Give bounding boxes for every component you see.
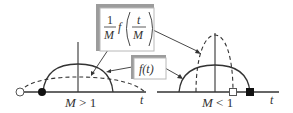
left-condition-label: M > 1 <box>64 95 96 110</box>
right-condition-label: M < 1 <box>201 95 233 110</box>
leader-line-scaled-left <box>92 50 108 74</box>
frac-numerator: 1 <box>107 13 113 27</box>
leader-line-original-left <box>110 67 132 71</box>
right-t-label: t <box>270 93 274 107</box>
original-function-label: f(t) <box>139 62 154 76</box>
right-panel: M < 1 t <box>157 33 279 110</box>
original-function-callout: f(t) <box>106 55 183 79</box>
arrowhead-icon <box>106 69 111 73</box>
open-circle-marker <box>16 88 24 96</box>
filled-circle-marker <box>38 88 46 96</box>
frac-denominator: M <box>103 28 115 42</box>
time-scaling-diagram: M > 1 t M < 1 t 1 M f t M <box>0 0 293 113</box>
leader-line-original-right <box>165 68 181 77</box>
left-panel: M > 1 t <box>16 42 146 110</box>
arrowhead-icon <box>195 49 201 54</box>
leader-line-scaled-right <box>153 30 199 52</box>
filled-square-marker <box>246 88 254 96</box>
inner-denominator: M <box>132 28 144 42</box>
left-t-label: t <box>140 93 144 107</box>
